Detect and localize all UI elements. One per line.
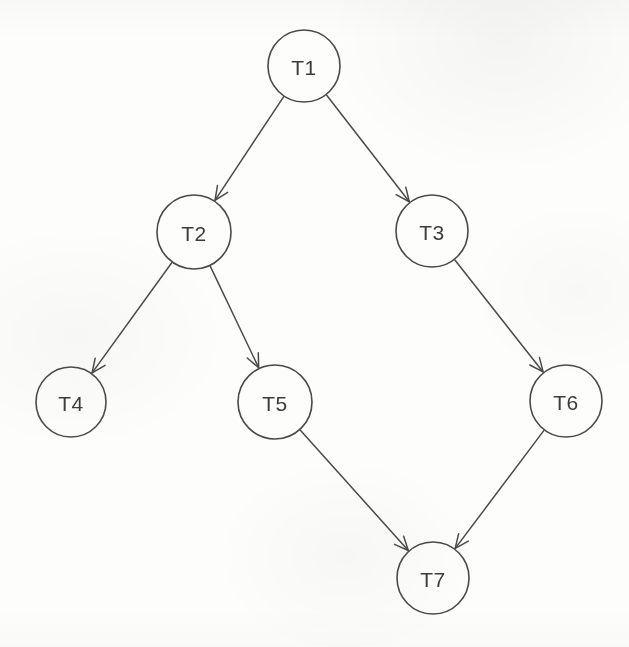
node-t6[interactable]: T6 <box>530 365 602 437</box>
task-dependency-graph: T1T2T3T4T5T6T7 <box>0 0 629 647</box>
node-t5[interactable]: T5 <box>238 365 312 439</box>
node-t1[interactable]: T1 <box>268 30 340 102</box>
edge-t3-to-t6 <box>455 260 543 372</box>
edge-t5-to-t7 <box>300 430 408 550</box>
edge-t2-to-t4 <box>92 263 172 373</box>
node-label: T2 <box>181 222 207 245</box>
edge-t6-to-t7 <box>455 431 544 549</box>
edges-layer <box>92 95 544 550</box>
node-t4[interactable]: T4 <box>36 367 106 437</box>
node-t2[interactable]: T2 <box>157 195 231 269</box>
node-label: T1 <box>291 56 317 79</box>
node-label: T4 <box>58 392 84 415</box>
edge-t1-to-t2 <box>215 97 284 200</box>
nodes-layer: T1T2T3T4T5T6T7 <box>36 30 602 614</box>
node-label: T7 <box>420 568 446 591</box>
node-label: T3 <box>419 221 445 244</box>
edge-t2-to-t5 <box>210 266 258 367</box>
diagram-canvas: T1T2T3T4T5T6T7 <box>0 0 629 647</box>
node-t7[interactable]: T7 <box>397 542 469 614</box>
node-label: T6 <box>553 391 579 414</box>
node-label: T5 <box>262 392 288 415</box>
node-t3[interactable]: T3 <box>396 195 468 267</box>
edge-t1-to-t3 <box>327 95 410 202</box>
